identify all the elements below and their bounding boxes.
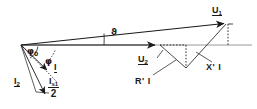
label-is1-numerator: Is1 [48,77,59,88]
label-phi0: φ0 [27,47,38,56]
label-phi: φ [45,57,52,66]
phasor-diagram-canvas [0,0,257,109]
leader-line-x-prime-i [196,52,212,62]
leader-line-r-prime-i [153,60,176,75]
label-i2: I2 [14,77,20,87]
leader-line-u2 [157,50,163,58]
phasor-diagram: U1 U2 φ0 φ ϑ I I2 Is1 2 R' I X' I [0,0,257,109]
label-i: I [54,63,57,73]
label-x-prime-i: X' I [206,63,221,72]
label-is1-over-2: Is1 2 [48,77,59,99]
label-theta: ϑ [111,28,117,37]
label-u1: U1 [212,6,222,16]
segment-r-prime-i [160,45,186,68]
phasor-u1 [21,24,224,46]
label-r-prime-i: R' I [135,77,151,86]
label-u2: U2 [138,55,148,65]
label-is1-denominator: 2 [48,88,59,99]
